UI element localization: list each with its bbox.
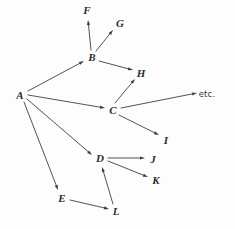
node-label-j: J [150, 154, 156, 165]
edge-line [28, 95, 101, 107]
node-label-g: G [116, 18, 124, 29]
edge-line [103, 171, 113, 204]
edge-b-to-h [99, 61, 133, 70]
node-label-i: I [164, 135, 168, 146]
arrowhead-icon [100, 106, 105, 109]
arrowhead-icon [154, 131, 159, 135]
node-label-etc: etc. [199, 90, 216, 99]
edge-line [119, 115, 155, 133]
node-label-k: K [152, 175, 159, 186]
graph-diagram: ABCDEFGHIJKLetc. [0, 0, 235, 229]
edge-b-to-f [87, 20, 91, 50]
node-label-b: B [88, 52, 95, 63]
edge-c-to-h [115, 79, 135, 103]
arrowhead-icon [140, 156, 145, 159]
arrowhead-icon [104, 206, 109, 209]
node-label-h: H [137, 68, 146, 79]
edge-e-to-l [70, 200, 109, 209]
arrowhead-icon [192, 92, 197, 95]
edge-d-to-j [108, 156, 145, 159]
edge-line [27, 99, 89, 152]
node-label-c: C [109, 105, 116, 116]
arrowhead-icon [102, 167, 105, 172]
edge-line [70, 200, 105, 208]
edge-line [28, 63, 80, 91]
arrowhead-icon [143, 174, 148, 177]
node-label-e: E [58, 193, 65, 204]
graph-edges-canvas [0, 0, 235, 229]
edge-line [24, 102, 56, 186]
edge-line [121, 94, 193, 108]
edge-c-to-etc [121, 92, 197, 108]
edge-a-to-b [28, 61, 84, 91]
edge-l-to-d [102, 167, 113, 204]
edge-a-to-c [28, 95, 105, 109]
node-label-d: D [96, 153, 104, 164]
arrowhead-icon [55, 185, 58, 190]
edge-d-to-k [108, 161, 148, 177]
node-label-a: A [16, 90, 23, 101]
arrowhead-icon [128, 67, 133, 70]
node-label-l: L [113, 206, 120, 217]
edge-line [96, 33, 110, 51]
arrowhead-icon [87, 20, 90, 25]
edge-a-to-d [27, 99, 92, 155]
edge-line [88, 24, 91, 50]
edge-a-to-e [24, 102, 58, 190]
edge-line [108, 161, 144, 175]
edge-c-to-i [119, 115, 159, 135]
node-label-f: F [83, 5, 90, 16]
edge-line [99, 61, 129, 69]
edge-line [115, 82, 132, 103]
arrowhead-icon [79, 61, 84, 65]
edge-b-to-g [96, 30, 113, 51]
